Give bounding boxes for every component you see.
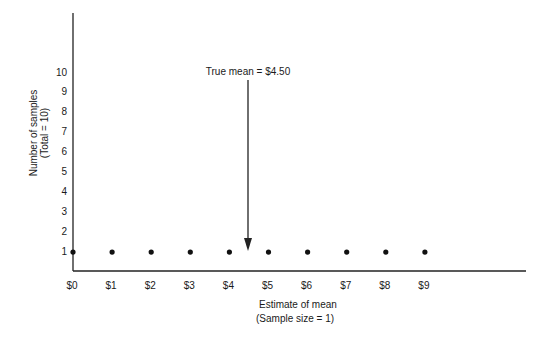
y-tick-label: 2 <box>61 226 67 237</box>
sampling-distribution-chart: 12345678910 $0$1$2$3$4$5$6$7$8$9 Number … <box>0 0 550 343</box>
x-tick-label: $5 <box>262 280 274 291</box>
data-point <box>149 250 154 255</box>
x-axis-label: Estimate of mean <box>259 299 337 310</box>
y-tick-label: 4 <box>61 186 67 197</box>
y-tick-label: 9 <box>61 86 67 97</box>
data-point <box>305 250 310 255</box>
y-tick-label: 5 <box>61 166 67 177</box>
x-tick-labels: $0$1$2$3$4$5$6$7$8$9 <box>66 280 429 291</box>
x-tick-label: $9 <box>418 280 430 291</box>
y-tick-label: 10 <box>56 67 68 78</box>
x-tick-label: $2 <box>145 280 157 291</box>
y-tick-label: 6 <box>61 146 67 157</box>
y-tick-label: 8 <box>61 106 67 117</box>
data-points <box>70 250 427 255</box>
y-tick-label: 7 <box>61 126 67 137</box>
x-tick-label: $4 <box>223 280 235 291</box>
true-mean-label: True mean = $4.50 <box>206 66 291 77</box>
y-axis-label: Number of samples <box>28 90 39 177</box>
true-mean-arrowhead-icon <box>244 238 252 251</box>
x-tick-label: $1 <box>106 280 118 291</box>
x-tick-label: $6 <box>301 280 313 291</box>
data-point <box>227 250 232 255</box>
y-tick-label: 3 <box>61 206 67 217</box>
data-point <box>422 250 427 255</box>
data-point <box>188 250 193 255</box>
x-axis-sublabel: (Sample size = 1) <box>256 313 334 324</box>
data-point <box>266 250 271 255</box>
y-tick-label: 1 <box>61 246 67 257</box>
x-tick-label: $7 <box>340 280 352 291</box>
x-tick-label: $3 <box>184 280 196 291</box>
data-point <box>344 250 349 255</box>
x-tick-label: $8 <box>379 280 391 291</box>
data-point <box>110 250 115 255</box>
x-tick-label: $0 <box>66 280 78 291</box>
y-axis-sublabel: (Total = 10) <box>39 108 50 158</box>
data-point <box>383 250 388 255</box>
data-point <box>70 250 75 255</box>
y-tick-labels: 12345678910 <box>56 67 68 257</box>
